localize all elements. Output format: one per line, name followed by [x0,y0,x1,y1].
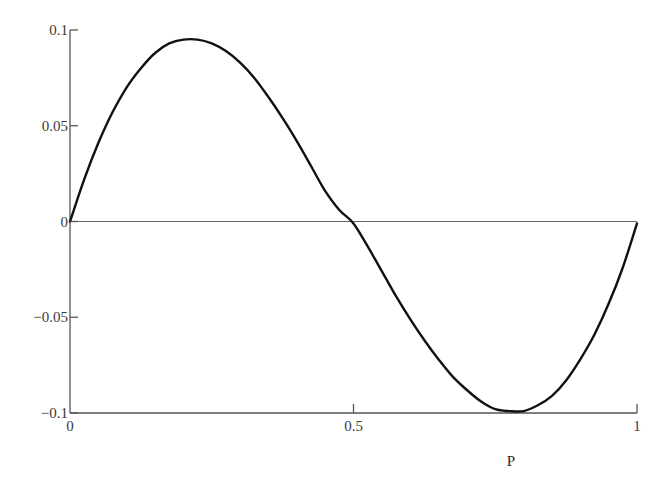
x-axis-title: P [507,453,515,469]
x-tick-label: 0.5 [344,418,363,434]
x-tick-label: 1 [633,418,641,434]
y-tick-label: −0.1 [41,405,68,421]
y-tick-label: 0 [61,214,69,230]
y-tick-labels: 0.10.050−0.05−0.1 [33,22,78,421]
x-tick-label: 0 [66,418,74,434]
chart: 0.10.050−0.05−0.1 00.51 P [0,0,661,485]
y-tick-label: −0.05 [33,309,68,325]
data-curve [70,39,637,412]
y-tick-label: 0.05 [42,118,68,134]
x-tick-labels: 00.51 [66,404,641,434]
y-tick-label: 0.1 [49,22,68,38]
